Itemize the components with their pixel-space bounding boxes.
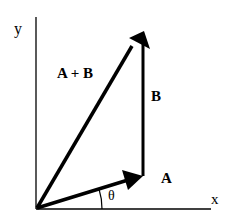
y-axis-label: y [14, 21, 22, 37]
angle-theta-label: θ [108, 189, 115, 203]
angle-arc [99, 189, 102, 209]
vector-b-label: B [151, 89, 161, 104]
x-axis-label: x [211, 192, 219, 207]
vector-a-plus-b-label: A + B [57, 66, 93, 81]
vector-diagram: y x A + B B A θ [0, 0, 229, 220]
vector-a-label: A [161, 171, 172, 186]
vector-a-arrow [37, 170, 143, 208]
diagram-graphic [0, 0, 229, 220]
